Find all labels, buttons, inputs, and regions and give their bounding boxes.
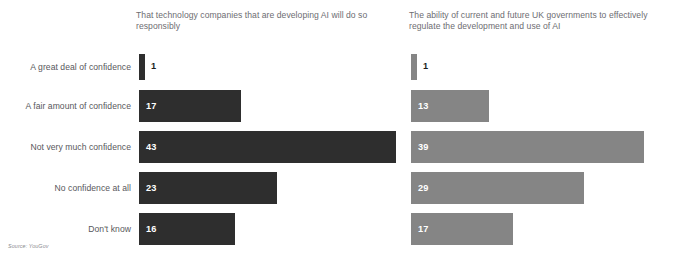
bar-a-great-deal-of-confidence-uk-governments (411, 54, 417, 80)
row-label: A great deal of confidence (0, 62, 131, 72)
panel-heading-tech-companies: That technology companies that are devel… (136, 10, 398, 33)
bar-value: 23 (146, 183, 156, 193)
bar-value: 13 (418, 101, 428, 111)
bar-chart: That technology companies that are devel… (0, 0, 678, 262)
bar-value: 17 (146, 101, 156, 111)
bar-not-very-much-confidence-uk-governments (411, 131, 644, 163)
row-label: Not very much confidence (0, 142, 131, 152)
bar-value: 17 (418, 224, 428, 234)
row-label: Don't know (0, 224, 131, 234)
bar-value: 1 (151, 61, 156, 71)
bar-not-very-much-confidence-tech-companies (139, 131, 396, 163)
panel-heading-uk-governments: The ability of current and future UK gov… (409, 10, 677, 33)
source-note: Source: YouGov (8, 243, 49, 249)
row-label: A fair amount of confidence (0, 101, 131, 111)
cropped-title-remnant (150, 0, 570, 5)
bar-value: 29 (418, 183, 428, 193)
bar-no-confidence-at-all-uk-governments (411, 172, 584, 204)
bar-value: 16 (146, 224, 156, 234)
bar-no-confidence-at-all-tech-companies (139, 172, 277, 204)
row-label: No confidence at all (0, 183, 131, 193)
bar-a-great-deal-of-confidence-tech-companies (139, 54, 145, 80)
bar-value: 1 (423, 61, 428, 71)
bar-value: 43 (146, 142, 156, 152)
bar-value: 39 (418, 142, 428, 152)
